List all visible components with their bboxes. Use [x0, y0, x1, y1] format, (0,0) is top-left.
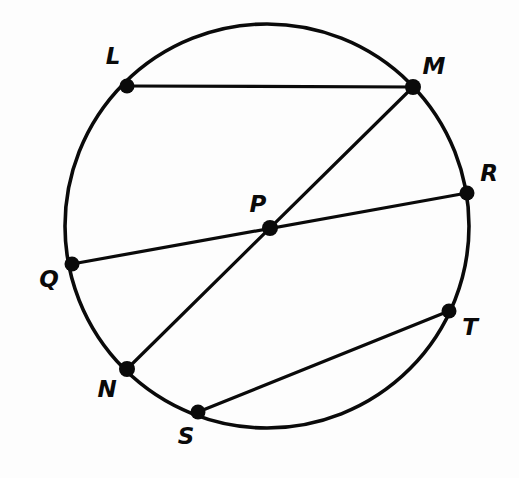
- chord-ST: [198, 311, 449, 412]
- figure-container: LMRTSNQP: [0, 0, 519, 478]
- geometry-canvas: LMRTSNQP: [0, 0, 519, 478]
- point-label-r: R: [480, 160, 498, 186]
- point-dot-group: [65, 79, 475, 420]
- point-dot-q: [65, 257, 80, 272]
- point-dot-t: [442, 304, 457, 319]
- point-dot-n: [119, 361, 135, 377]
- point-dot-m: [405, 79, 421, 95]
- point-label-t: T: [462, 314, 480, 340]
- chord-LM: [127, 86, 413, 87]
- point-label-n: N: [97, 376, 116, 402]
- point-label-l: L: [106, 43, 121, 69]
- point-label-s: S: [178, 423, 195, 449]
- point-label-m: M: [423, 53, 446, 79]
- point-label-p: P: [250, 191, 267, 217]
- point-dot-p: [262, 220, 278, 236]
- point-dot-s: [191, 405, 206, 420]
- point-label-q: Q: [39, 266, 59, 292]
- point-dot-l: [120, 79, 135, 94]
- point-dot-r: [460, 186, 475, 201]
